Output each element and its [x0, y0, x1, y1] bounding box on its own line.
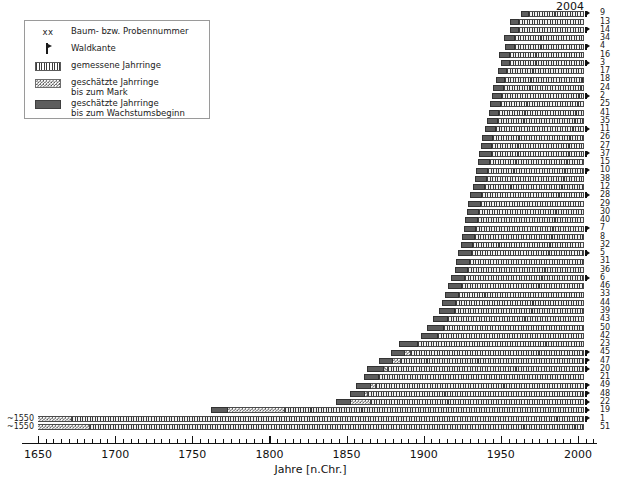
sample-bar[interactable] — [487, 118, 584, 124]
sample-bar[interactable] — [499, 52, 584, 58]
sample-bar[interactable] — [464, 226, 584, 232]
sample-bar[interactable] — [468, 201, 584, 207]
segment-estimated-to-growth-start — [211, 407, 228, 413]
segment-measured-rings — [388, 366, 584, 372]
x-axis-minor-tick — [53, 439, 54, 443]
sample-bar[interactable] — [478, 159, 584, 165]
segment-measured-rings — [493, 135, 584, 141]
waldkante-icon — [25, 43, 71, 55]
sample-bar[interactable] — [467, 209, 584, 215]
waldkante-marker — [587, 391, 590, 395]
legend-item-label: geschätzte Jahrringe bis zum Wachstumsbe… — [71, 98, 185, 118]
sample-bar[interactable] — [501, 60, 584, 66]
sample-bar[interactable] — [364, 374, 585, 380]
segment-estimated-to-growth-start — [476, 168, 488, 174]
sample-bar[interactable] — [445, 292, 584, 298]
sample-bar[interactable] — [367, 366, 585, 372]
segment-measured-rings — [481, 201, 584, 207]
sample-bar[interactable] — [448, 283, 584, 289]
sample-bar[interactable] — [421, 333, 585, 339]
segment-measured-rings — [504, 85, 584, 91]
segment-estimated-to-pith — [38, 424, 90, 430]
sample-bar[interactable] — [391, 350, 584, 356]
segment-estimated-to-growth-start — [504, 35, 515, 41]
sample-bar[interactable] — [458, 250, 585, 256]
segment-measured-rings — [507, 68, 584, 74]
x-axis-minor-tick — [563, 439, 564, 443]
sample-bar[interactable] — [505, 44, 584, 50]
sample-number-key-icon: xx — [25, 26, 71, 38]
x-axis-minor-tick — [516, 439, 517, 443]
sample-bar[interactable] — [211, 407, 584, 413]
sample-bar[interactable] — [461, 242, 584, 248]
legend-item-label: geschätzte Jahrringe bis zum Mark — [71, 77, 159, 97]
sample-bar[interactable] — [479, 151, 584, 157]
sample-bar[interactable] — [493, 85, 584, 91]
sample-bar[interactable] — [456, 259, 584, 265]
x-axis-tick-label: 1750 — [162, 448, 222, 461]
x-axis-minor-tick — [416, 439, 417, 443]
x-axis-minor-tick — [509, 439, 510, 443]
sample-bar[interactable] — [475, 176, 585, 182]
segment-estimated-to-growth-start — [456, 259, 470, 265]
x-axis-tick-label: 1900 — [394, 448, 454, 461]
sample-bar[interactable] — [489, 110, 585, 116]
sample-bar[interactable] — [379, 358, 584, 364]
segment-estimated-to-growth-start — [498, 68, 507, 74]
segment-measured-rings — [72, 416, 584, 422]
sample-bar[interactable] — [439, 308, 584, 314]
sample-bar[interactable] — [482, 135, 584, 141]
segment-measured-rings — [492, 151, 585, 157]
sample-bar[interactable] — [504, 35, 584, 41]
x-axis-minor-tick — [377, 439, 378, 443]
x-axis-tick-label: 1650 — [8, 448, 68, 461]
x-axis-minor-tick — [408, 439, 409, 443]
x-axis-minor-tick — [354, 439, 355, 443]
dendro-chart-root: xxBaum- bzw. ProbennummerWaldkantegemess… — [0, 0, 621, 480]
segment-estimated-to-growth-start — [475, 176, 487, 182]
segment-estimated-to-growth-start — [367, 366, 384, 372]
sample-bar[interactable] — [427, 325, 584, 331]
x-axis-minor-tick — [339, 439, 340, 443]
sample-bar[interactable] — [451, 275, 584, 281]
waldkante-marker — [587, 276, 590, 280]
sample-bar[interactable] — [462, 234, 584, 240]
solid-swatch-icon — [25, 98, 71, 110]
x-axis-major-tick — [269, 436, 270, 443]
segment-measured-rings — [505, 77, 584, 83]
sample-bar[interactable] — [485, 126, 584, 132]
sample-bar[interactable] — [455, 267, 585, 273]
x-axis-minor-tick — [61, 439, 62, 443]
sample-bar[interactable] — [476, 168, 584, 174]
sample-bar[interactable] — [399, 341, 584, 347]
sample-bar[interactable] — [490, 101, 584, 107]
x-axis-minor-tick — [300, 439, 301, 443]
segment-estimated-to-growth-start — [439, 308, 454, 314]
sample-bar[interactable] — [470, 192, 584, 198]
segment-measured-rings — [444, 325, 584, 331]
x-axis-minor-tick — [439, 439, 440, 443]
sample-bar[interactable] — [38, 416, 584, 422]
sample-bar[interactable] — [38, 424, 584, 430]
sample-bar[interactable] — [496, 77, 584, 83]
sample-bar[interactable] — [492, 93, 585, 99]
segment-measured-rings — [510, 60, 584, 66]
sample-bar[interactable] — [350, 391, 585, 397]
waldkante-marker — [587, 408, 590, 412]
x-axis-minor-tick — [277, 439, 278, 443]
end-year-annotation: 2004 — [556, 0, 584, 13]
sample-bar[interactable] — [465, 217, 584, 223]
sample-bar[interactable] — [510, 19, 584, 25]
sample-bar[interactable] — [498, 68, 584, 74]
sample-bar[interactable] — [336, 399, 584, 405]
x-axis-minor-tick — [447, 439, 448, 443]
sample-bar[interactable] — [442, 300, 584, 306]
sample-bar[interactable] — [481, 143, 584, 149]
segment-measured-rings — [488, 168, 584, 174]
sample-bar[interactable] — [510, 27, 584, 33]
x-axis-minor-tick — [539, 439, 540, 443]
sample-bar[interactable] — [356, 383, 584, 389]
sample-bar[interactable] — [473, 184, 584, 190]
sample-bar[interactable] — [433, 316, 584, 322]
segment-measured-rings — [465, 275, 584, 281]
